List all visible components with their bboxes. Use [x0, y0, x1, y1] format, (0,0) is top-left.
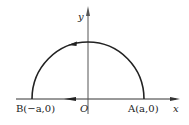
- y-axis-arrowhead-icon: [86, 6, 90, 16]
- x-axis-arrowhead-icon: [170, 97, 180, 101]
- axis-direction-arrow-icon: [64, 97, 76, 101]
- point-b-label: B(−a,0): [16, 103, 55, 114]
- point-a-label: A(a,0): [127, 103, 159, 114]
- y-axis-label: y: [77, 11, 84, 22]
- semicircle-diagram: y x O B(−a,0) A(a,0): [0, 0, 189, 125]
- x-axis-label: x: [173, 103, 179, 114]
- origin-label: O: [80, 103, 88, 114]
